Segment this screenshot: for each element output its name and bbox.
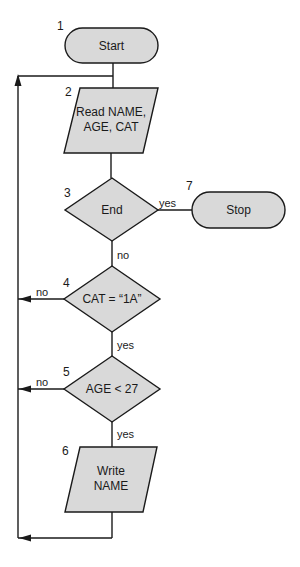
node-number: 2 <box>65 85 72 99</box>
node-cat-label: CAT = “1A” <box>82 292 141 306</box>
flowchart: Start 1 Read NAME, AGE, CAT 2 End 3 yes … <box>0 0 300 567</box>
node-write-label-line1: Write <box>97 464 125 478</box>
node-number: 5 <box>63 365 70 379</box>
node-start-label: Start <box>99 39 125 53</box>
node-cat-check: CAT = “1A” 4 <box>63 266 160 332</box>
node-stop: Stop 7 <box>186 179 285 228</box>
node-number: 6 <box>62 444 69 458</box>
arrow-left-icon <box>19 535 31 542</box>
edge-label-no: no <box>117 249 129 261</box>
edge-label-yes: yes <box>117 339 135 351</box>
node-write: Write NAME 6 <box>62 444 157 512</box>
edge-label-no: no <box>36 376 48 388</box>
node-stop-label: Stop <box>226 203 251 217</box>
arrow-left-icon <box>19 386 31 393</box>
node-end-label: End <box>101 203 122 217</box>
node-read-label-line1: Read NAME, <box>76 105 146 119</box>
node-end: End 3 <box>64 178 158 241</box>
node-read-label-line2: AGE, CAT <box>83 120 139 134</box>
node-age-check: AGE < 27 5 <box>63 356 160 422</box>
node-number: 3 <box>64 186 71 200</box>
arrow-left-icon <box>19 296 31 303</box>
node-start: Start 1 <box>57 19 158 63</box>
node-number: 1 <box>57 19 64 33</box>
edge-label-no: no <box>36 286 48 298</box>
node-age-label: AGE < 27 <box>86 382 139 396</box>
node-read: Read NAME, AGE, CAT 2 <box>64 85 158 153</box>
edge-label-yes: yes <box>159 197 177 209</box>
node-number: 4 <box>63 276 70 290</box>
edge-label-yes: yes <box>117 428 135 440</box>
node-number: 7 <box>186 179 193 193</box>
node-write-label-line2: NAME <box>94 479 129 493</box>
